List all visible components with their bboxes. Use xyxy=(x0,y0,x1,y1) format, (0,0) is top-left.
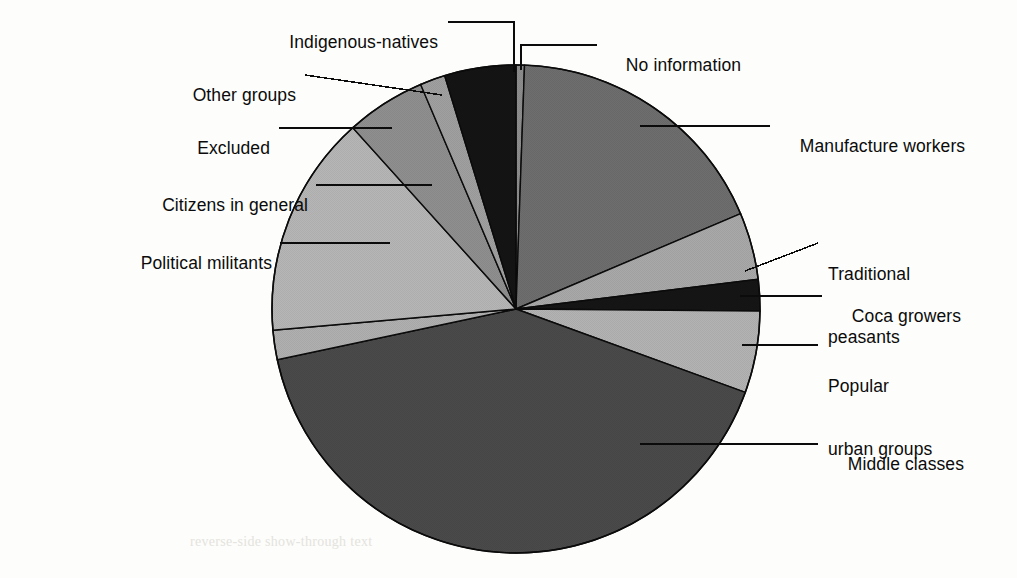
label-citizens-in-general: Citizens in general xyxy=(10,174,308,237)
pie-slice-texture xyxy=(272,65,760,553)
pie-chart-figure: reverse-side show-through text faint pri… xyxy=(0,0,1017,578)
label-political-militants: Political militants xyxy=(0,232,272,295)
leader-traditional-peasants xyxy=(745,243,818,271)
label-popular-urban-groups-line1: Popular xyxy=(828,376,1017,397)
label-excluded: Excluded xyxy=(30,117,270,180)
label-manufacture-workers: Manufacture workers xyxy=(780,115,1017,178)
label-no-information: No information xyxy=(606,34,866,97)
label-middle-classes: Middle classes xyxy=(828,433,1017,496)
label-traditional-peasants-line1: Traditional xyxy=(828,264,1008,285)
